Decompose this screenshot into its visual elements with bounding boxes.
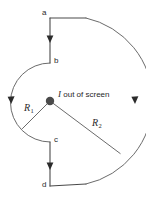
radius-label-R1-subscript: 1 [30, 107, 33, 114]
current-symbol: I [58, 89, 61, 99]
arrow-head-arc-R2 [131, 96, 138, 104]
arrow-head-cd [47, 163, 54, 171]
radius-label-R1: R1 [24, 103, 33, 113]
figure-svg [0, 0, 146, 205]
radius-label-R2: R2 [92, 118, 101, 128]
node-label-a: a [42, 9, 46, 17]
current-loop-figure: a b c d R1 R2 I out of screen [0, 0, 146, 205]
arrow-head-ab [47, 36, 54, 44]
arrow-head-arc-R1 [8, 96, 15, 104]
node-label-b: b [54, 57, 58, 65]
center-current-dot [46, 97, 54, 105]
radius-label-R2-subscript: 2 [98, 122, 101, 129]
arc-R2-outer [86, 18, 146, 184]
current-out-of-screen-label: I out of screen [58, 90, 109, 99]
radius-line-R2 [50, 101, 120, 154]
segment-outer-arc-d [50, 184, 86, 186]
node-label-d: d [42, 181, 46, 189]
current-direction-text: out of screen [63, 90, 109, 99]
node-label-c: c [54, 136, 58, 144]
